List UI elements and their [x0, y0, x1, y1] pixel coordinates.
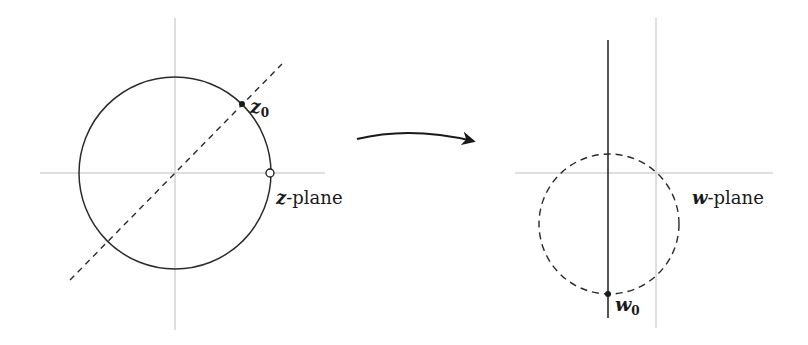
mapping-diagram: z0 z-plane w0 w-plane — [0, 0, 808, 345]
w-dashed-circle — [539, 154, 679, 294]
w-plane-panel: w0 w-plane — [515, 18, 773, 328]
w0-point — [605, 291, 611, 297]
z0-label: z0 — [249, 95, 269, 120]
z-plane-label: z-plane — [275, 187, 343, 208]
z0-point — [239, 101, 245, 107]
mapping-arrow — [357, 133, 473, 141]
z-pole-open-point — [266, 169, 274, 177]
w0-label: w0 — [615, 293, 640, 318]
w-plane-label: w-plane — [692, 187, 764, 208]
z-plane-panel: z0 z-plane — [40, 18, 343, 330]
